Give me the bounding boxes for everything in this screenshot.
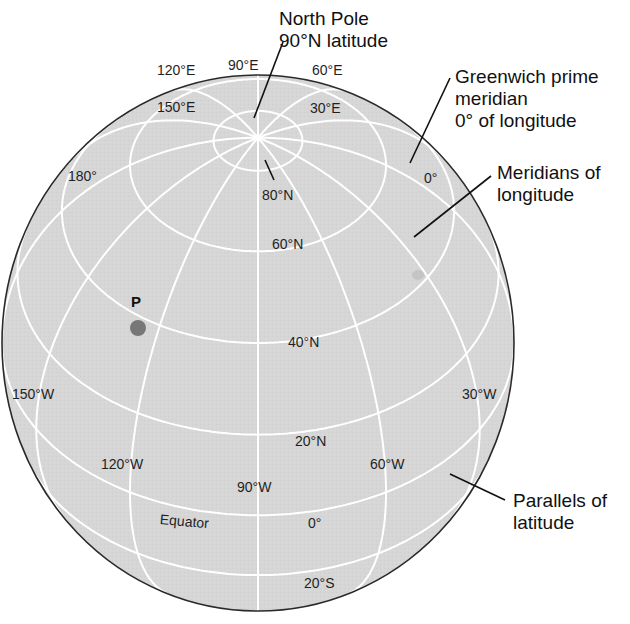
map-blemish <box>412 270 424 280</box>
greenwich-callout: Greenwich prime meridian 0° of longitude <box>455 66 599 132</box>
label-90e: 90°E <box>228 57 259 73</box>
greenwich-callout-line-1: Greenwich prime <box>455 66 599 88</box>
label-180: 180° <box>68 168 97 184</box>
label-60w: 60°W <box>370 456 404 472</box>
label-0-latitude: 0° <box>308 515 321 531</box>
meridians-callout: Meridians of longitude <box>497 162 601 206</box>
label-60n: 60°N <box>272 236 303 252</box>
meridians-callout-line-1: Meridians of <box>497 162 601 184</box>
label-30w: 30°W <box>462 386 496 402</box>
label-150e: 150°E <box>157 99 195 115</box>
north-pole-callout: North Pole 90°N latitude <box>279 8 388 52</box>
globe-diagram: North Pole 90°N latitude Greenwich prime… <box>0 0 630 624</box>
label-80n: 80°N <box>262 187 293 203</box>
parallels-callout: Parallels of latitude <box>513 490 607 534</box>
north-pole-callout-line-2: 90°N latitude <box>279 30 388 52</box>
label-150w: 150°W <box>12 386 54 402</box>
label-30e: 30°E <box>310 100 341 116</box>
parallels-callout-line-2: latitude <box>513 512 607 534</box>
label-20s: 20°S <box>304 575 335 591</box>
label-20n: 20°N <box>295 433 326 449</box>
label-90w: 90°W <box>237 479 271 495</box>
point-p-label: P <box>131 293 141 310</box>
label-120e: 120°E <box>157 62 195 78</box>
label-120w: 120°W <box>101 456 143 472</box>
parallels-callout-line-1: Parallels of <box>513 490 607 512</box>
north-pole-callout-line-1: North Pole <box>279 8 388 30</box>
point-p-marker <box>130 320 146 336</box>
greenwich-callout-line-2: meridian <box>455 88 599 110</box>
label-60e: 60°E <box>312 62 343 78</box>
meridians-callout-line-2: longitude <box>497 184 601 206</box>
label-40n: 40°N <box>288 334 319 350</box>
greenwich-callout-line-3: 0° of longitude <box>455 110 599 132</box>
label-0-longitude: 0° <box>424 170 437 186</box>
